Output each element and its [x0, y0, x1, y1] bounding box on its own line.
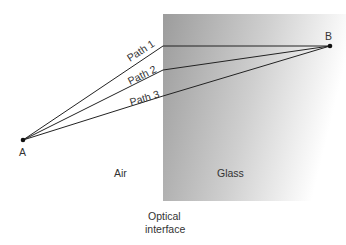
- interface-label-line2: interface: [145, 223, 185, 235]
- glass-label: Glass: [217, 167, 244, 179]
- refraction-diagram: A B Path 1 Path 2 Path 3 Air Glass Optic…: [0, 0, 346, 245]
- path-1-label: Path 1: [125, 37, 157, 64]
- path-2-label: Path 2: [126, 63, 159, 87]
- glass-region: [163, 14, 346, 201]
- interface-label-line1: Optical: [148, 210, 181, 222]
- point-b-label: B: [325, 30, 332, 42]
- point-a-label: A: [19, 146, 26, 158]
- point-b-marker: [328, 44, 333, 49]
- air-label: Air: [114, 167, 127, 179]
- path-3-label: Path 3: [128, 88, 161, 108]
- point-a-marker: [21, 138, 26, 143]
